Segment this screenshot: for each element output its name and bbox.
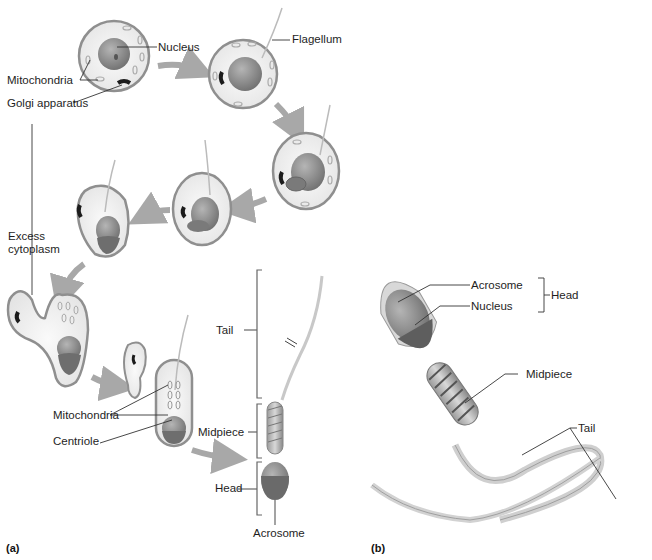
spermatid-stage-6 [8, 291, 88, 386]
label-nucleus: Nucleus [158, 41, 200, 54]
spermiogenesis-figure: Nucleus Mitochondria Golgi apparatus Fla… [0, 0, 652, 560]
label-centriole: Centriole [53, 435, 99, 448]
label-flagellum: Flagellum [292, 33, 342, 46]
label-head-b: Head [551, 289, 579, 302]
spermatid-stage-2 [209, 8, 282, 108]
spermatid-stage-7 [156, 315, 192, 446]
residual-body [124, 342, 146, 398]
label-head-a: Head [215, 482, 243, 495]
panel-tag-a: (a) [6, 542, 19, 554]
mature-sperm-a [261, 276, 322, 500]
label-acrosome-a: Acrosome [253, 527, 305, 540]
label-excess-cytoplasm-line2: cytoplasm [8, 243, 60, 256]
diagram-artwork [0, 0, 652, 560]
spermatid-stage-5 [78, 160, 129, 257]
label-mitochondria-top: Mitochondria [7, 74, 73, 87]
label-tail-a: Tail [216, 324, 233, 337]
label-tail-b: Tail [578, 422, 595, 435]
label-mitochondria-bottom: Mitochondria [53, 409, 119, 422]
label-golgi-apparatus: Golgi apparatus [7, 97, 88, 110]
label-midpiece-a: Midpiece [198, 426, 244, 439]
panel-tag-b: (b) [371, 542, 385, 554]
label-excess-cytoplasm-line1: Excess [8, 230, 45, 243]
spermatid-stage-1 [79, 21, 149, 91]
label-acrosome-b: Acrosome [471, 279, 523, 292]
spermatid-stage-3 [273, 105, 339, 209]
label-nucleus-b: Nucleus [471, 300, 513, 313]
label-midpiece-b: Midpiece [526, 368, 572, 381]
spermatid-stage-4 [173, 140, 231, 245]
